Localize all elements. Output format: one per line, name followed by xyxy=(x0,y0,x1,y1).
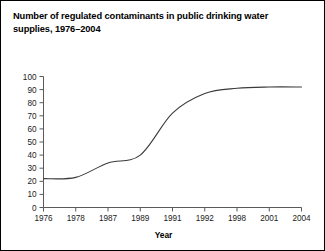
x-tick-label: 1992 xyxy=(196,214,215,223)
x-axis-tick-marks xyxy=(44,208,302,212)
figure-container: Number of regulated contaminants in publ… xyxy=(0,0,325,251)
y-tick-label: 30 xyxy=(27,164,37,173)
data-series-line xyxy=(44,87,302,179)
x-tick-label: 1987 xyxy=(99,214,118,223)
x-axis-tick-labels: 197619781987198919911992199820012004 xyxy=(34,214,311,223)
x-axis-title: Year xyxy=(1,230,325,240)
y-axis-tick-marks xyxy=(40,77,44,208)
x-tick-label: 2004 xyxy=(292,214,311,223)
y-tick-label: 90 xyxy=(27,86,37,95)
x-tick-label: 1978 xyxy=(67,214,86,223)
y-tick-label: 20 xyxy=(27,177,37,186)
y-tick-label: 50 xyxy=(27,138,37,147)
y-axis-tick-labels: 0102030405060708090100 xyxy=(23,73,37,213)
y-tick-label: 70 xyxy=(27,112,37,121)
y-tick-label: 10 xyxy=(27,190,37,199)
line-chart-svg: 0102030405060708090100 19761978198719891… xyxy=(1,1,325,251)
x-tick-label: 1976 xyxy=(34,214,53,223)
x-tick-label: 1989 xyxy=(131,214,150,223)
plot-area: 0102030405060708090100 19761978198719891… xyxy=(1,1,325,251)
y-tick-label: 60 xyxy=(27,125,37,134)
x-tick-label: 1998 xyxy=(228,214,247,223)
y-tick-label: 100 xyxy=(23,73,37,82)
y-tick-label: 0 xyxy=(32,204,37,213)
y-tick-label: 40 xyxy=(27,151,37,160)
x-tick-label: 2001 xyxy=(260,214,279,223)
y-tick-label: 80 xyxy=(27,99,37,108)
x-tick-label: 1991 xyxy=(163,214,182,223)
